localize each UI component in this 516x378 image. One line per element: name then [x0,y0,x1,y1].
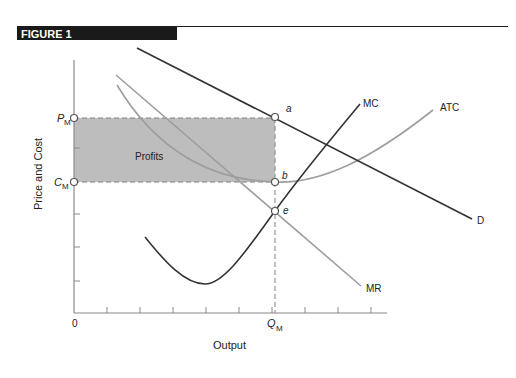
pm-marker [71,115,78,122]
figure-label: FIGURE 1 [21,28,72,40]
origin-label: 0 [72,318,78,329]
cm-label-main: C [54,176,62,188]
point-e-label: e [283,205,289,216]
profits-label: Profits [135,151,163,162]
qm-label-sub: M [276,324,283,333]
point-a-label: a [286,103,292,114]
cm-label-sub: M [62,182,69,191]
point-b-marker [272,179,279,186]
x-axis-title: Output [213,339,246,351]
atc-label: ATC [440,102,459,113]
y-axis-title: Price and Cost [32,138,44,210]
d-label: D [477,215,484,226]
x-ticks [107,307,371,313]
mr-label: MR [366,283,382,294]
pm-label-sub: M [64,118,71,127]
point-b-label: b [282,170,288,181]
mc-label: MC [363,98,379,109]
point-a-marker [272,114,279,121]
cm-marker [71,179,78,186]
point-e-marker [272,208,279,215]
monopoly-profit-chart: FIGURE 1 a b e Profits MC ATC [0,0,516,378]
qm-label-main: Q [267,317,276,329]
